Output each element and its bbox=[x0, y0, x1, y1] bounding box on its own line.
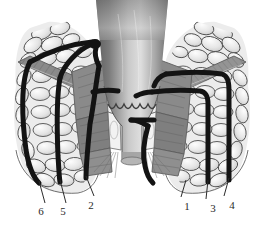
internal-opening-bulb-left bbox=[89, 39, 101, 49]
fistula-tract-2-horizontal bbox=[93, 90, 118, 92]
label-6: 6 bbox=[34, 206, 48, 217]
label-5: 5 bbox=[56, 206, 70, 217]
label-4: 4 bbox=[225, 200, 239, 211]
label-1: 1 bbox=[180, 201, 194, 212]
anatomical-figure: 6 5 2 1 3 4 bbox=[0, 0, 264, 230]
anorectum-coronal-illustration bbox=[0, 0, 264, 230]
label-2: 2 bbox=[84, 200, 98, 211]
label-3: 3 bbox=[206, 203, 220, 214]
fistula-tract-5 bbox=[57, 78, 60, 182]
